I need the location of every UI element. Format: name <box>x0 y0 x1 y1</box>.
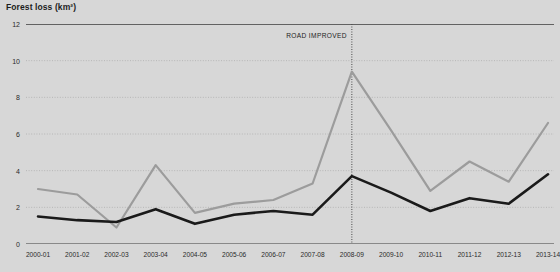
x-axis-tick-2001-02: 2001-02 <box>65 251 89 258</box>
x-axis-tick-2007-08: 2007-08 <box>301 251 325 258</box>
chart-svg <box>26 24 554 244</box>
x-axis-tick-2009-10: 2009-10 <box>379 251 403 258</box>
x-axis-tick-2012-13: 2012-13 <box>497 251 521 258</box>
x-axis-tick-2005-06: 2005-06 <box>222 251 246 258</box>
x-axis-tick-2002-03: 2002-03 <box>104 251 128 258</box>
x-axis-tick-2000-01: 2000-01 <box>26 251 50 258</box>
plot-area <box>26 24 554 244</box>
chart-title: Forest loss (km²) <box>6 2 76 12</box>
y-axis-tick-2: 2 <box>0 204 20 211</box>
y-axis-tick-10: 10 <box>0 57 20 64</box>
y-axis-tick-4: 4 <box>0 167 20 174</box>
x-axis-tick-2004-05: 2004-05 <box>183 251 207 258</box>
x-axis-tick-2011-12: 2011-12 <box>458 251 482 258</box>
x-axis-tick-2008-09: 2008-09 <box>340 251 364 258</box>
annotation-road-improved: ROAD IMPROVED <box>286 32 347 39</box>
y-axis-tick-12: 12 <box>0 21 20 28</box>
x-axis-tick-2006-07: 2006-07 <box>261 251 285 258</box>
x-axis-tick-2003-04: 2003-04 <box>144 251 168 258</box>
x-axis-tick-2013-14: 2013-14 <box>536 251 560 258</box>
y-axis-tick-0: 0 <box>0 241 20 248</box>
forest-loss-line-chart: Forest loss (km²) 024681012 2000-012001-… <box>0 0 560 272</box>
x-axis-tick-2010-11: 2010-11 <box>418 251 442 258</box>
y-axis-tick-8: 8 <box>0 94 20 101</box>
y-axis-tick-6: 6 <box>0 131 20 138</box>
